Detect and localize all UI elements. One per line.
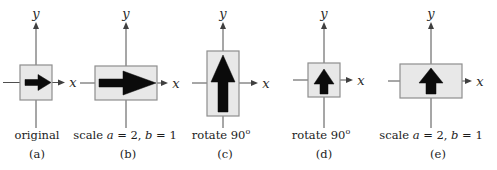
y-axis-arrowhead-icon <box>220 22 226 29</box>
panel-c-tag: (c) <box>217 147 232 161</box>
y-axis-arrowhead-icon <box>33 22 39 29</box>
panel-a-caption: original <box>14 128 59 142</box>
y-axis-label: y <box>121 6 130 21</box>
y-axis-label: y <box>31 6 40 21</box>
figure-transformations: x y x y x y <box>0 0 497 170</box>
panel-d-caption: rotate 90o <box>292 128 350 142</box>
panel-b-caption: scale a = 2, b = 1 <box>73 128 176 142</box>
x-axis-arrowhead-icon <box>58 80 65 86</box>
y-axis-label: y <box>426 6 435 21</box>
caption-text: rotate 90 <box>292 128 346 142</box>
panel-b-diagram: x y <box>80 6 180 128</box>
panel-c-caption: rotate 90o <box>192 128 250 142</box>
panel-d-tag: (d) <box>316 147 332 161</box>
diagram-svg: x y x y x y <box>0 0 497 170</box>
caption-text: original <box>14 128 59 142</box>
y-axis-label: y <box>319 6 328 21</box>
panel-a-diagram: x y <box>3 6 77 128</box>
panel-a-tag: (a) <box>29 147 45 161</box>
x-axis-label: x <box>69 75 77 90</box>
panel-e-tag: (e) <box>430 147 446 161</box>
caption-text: scale <box>379 128 412 142</box>
panel-b-tag: (b) <box>120 147 136 161</box>
y-axis-arrowhead-icon <box>428 22 434 29</box>
x-axis-label: x <box>357 73 365 88</box>
panel-c-diagram: x y <box>192 6 270 128</box>
caption-text: rotate 90 <box>192 128 246 142</box>
y-axis-arrowhead-icon <box>123 22 129 29</box>
panel-d-diagram: x y <box>293 6 365 128</box>
x-axis-label: x <box>262 76 270 91</box>
x-axis-label: x <box>172 76 180 91</box>
y-axis-arrowhead-icon <box>321 22 327 29</box>
y-axis-label: y <box>218 6 227 21</box>
x-axis-label: x <box>476 74 484 89</box>
x-axis-arrowhead-icon <box>346 77 353 83</box>
panel-e-diagram: x y <box>388 6 484 128</box>
x-axis-arrowhead-icon <box>161 80 168 86</box>
x-axis-arrowhead-icon <box>465 78 472 84</box>
x-axis-arrowhead-icon <box>251 80 258 86</box>
caption-text: scale <box>73 128 106 142</box>
panel-e-caption: scale a = 2, b = 1 <box>379 128 482 142</box>
